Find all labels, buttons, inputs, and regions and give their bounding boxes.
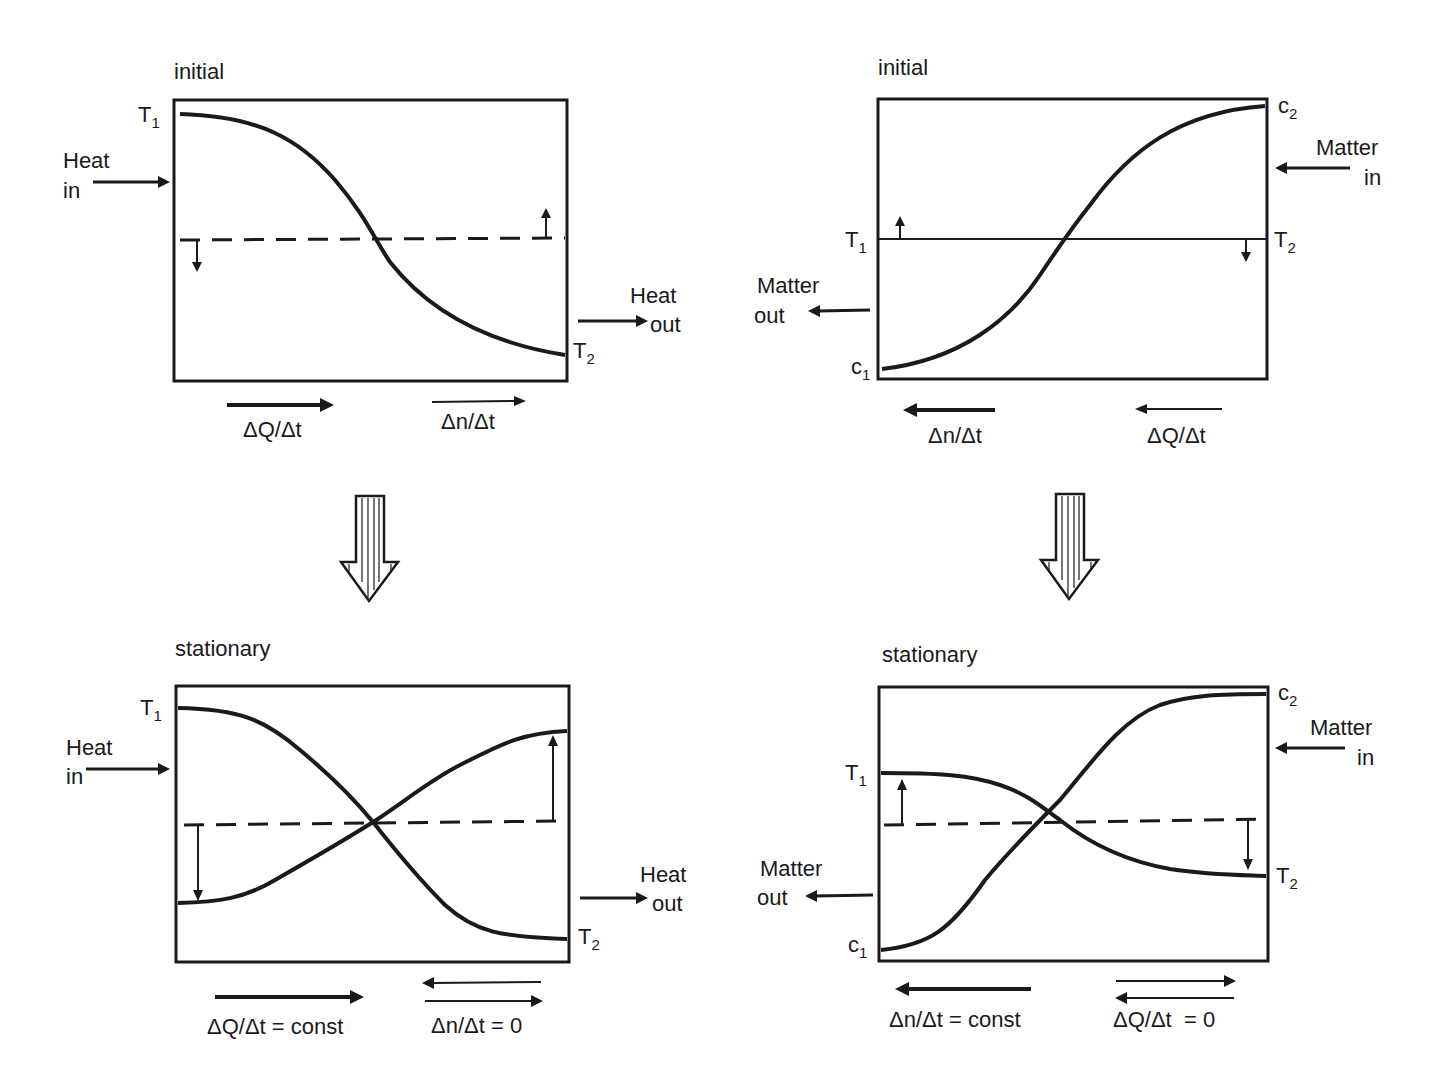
plot-frame xyxy=(174,100,567,381)
matter-out-arrow xyxy=(805,890,873,902)
svg-text:Δn/Δt: Δn/Δt xyxy=(441,409,495,434)
svg-text:T1: T1 xyxy=(845,760,867,789)
svg-text:out: out xyxy=(652,891,683,916)
svg-text:ΔQ/Δt = const: ΔQ/Δt = const xyxy=(207,1014,343,1039)
matter-flux-arrow-right xyxy=(425,995,543,1007)
heat-flux-arrow-right xyxy=(1116,975,1236,987)
svg-text:c2: c2 xyxy=(1278,680,1297,709)
transition-arrow-left xyxy=(341,496,398,601)
panel-title: stationary xyxy=(882,642,977,667)
panel-top-left: initial T1 T2 Heat in Heat out xyxy=(63,59,681,442)
svg-text:Heat: Heat xyxy=(63,148,109,173)
heat-in-arrow xyxy=(93,176,170,188)
dashed-midline xyxy=(884,819,1266,825)
svg-text:ΔQ/Δt: ΔQ/Δt xyxy=(1147,423,1206,448)
svg-text:in: in xyxy=(1357,745,1374,770)
svg-text:Δn/Δt = 0: Δn/Δt = 0 xyxy=(431,1013,522,1038)
heat-out-arrow xyxy=(578,315,648,327)
temperature-curve xyxy=(180,114,565,355)
matter-out-arrow xyxy=(808,305,870,317)
temperature-curve xyxy=(881,773,1266,876)
svg-text:in: in xyxy=(66,764,83,789)
matter-in-arrow xyxy=(1275,162,1350,174)
svg-text:Matter: Matter xyxy=(760,856,822,881)
up-arrow-small xyxy=(541,208,551,238)
svg-text:T2: T2 xyxy=(1274,227,1296,256)
panel-title: initial xyxy=(878,55,928,80)
svg-text:T1: T1 xyxy=(140,695,162,724)
svg-text:Matter: Matter xyxy=(1310,715,1372,740)
svg-text:c2: c2 xyxy=(1278,93,1297,122)
heat-out-arrow xyxy=(580,892,648,904)
svg-text:Δn/Δt = const: Δn/Δt = const xyxy=(889,1007,1021,1032)
svg-text:T2: T2 xyxy=(578,924,600,953)
down-arrow-small xyxy=(192,240,202,272)
svg-text:T2: T2 xyxy=(573,338,595,367)
concentration-curve xyxy=(881,694,1266,950)
concentration-curve xyxy=(178,731,567,903)
svg-text:Matter: Matter xyxy=(757,273,819,298)
svg-text:Heat: Heat xyxy=(66,735,112,760)
svg-text:out: out xyxy=(650,312,681,337)
matter-flux-arrow xyxy=(432,396,526,406)
svg-text:c1: c1 xyxy=(848,932,867,961)
matter-flux-arrow xyxy=(903,403,995,417)
heat-flux-arrow xyxy=(1135,404,1222,414)
svg-text:T2: T2 xyxy=(1276,863,1298,892)
dashed-midline xyxy=(180,238,565,240)
up-arrow-small xyxy=(895,216,905,239)
down-arrow-small xyxy=(1241,239,1251,262)
heat-flux-arrow-left xyxy=(1115,992,1234,1004)
heat-flux-arrow xyxy=(215,990,364,1004)
svg-text:T1: T1 xyxy=(845,227,867,256)
plot-frame xyxy=(879,687,1268,961)
svg-text:Δn/Δt: Δn/Δt xyxy=(928,423,982,448)
svg-text:out: out xyxy=(757,885,788,910)
svg-text:in: in xyxy=(1364,165,1381,190)
matter-flux-arrow-left xyxy=(422,977,541,989)
panel-bottom-right: stationary c2 c1 T1 T2 Matter in Matter … xyxy=(757,642,1374,1032)
svg-text:out: out xyxy=(754,303,785,328)
matter-in-arrow xyxy=(1275,742,1345,754)
panel-title: stationary xyxy=(175,636,270,661)
svg-text:T1: T1 xyxy=(138,102,160,131)
svg-text:ΔQ/Δt: ΔQ/Δt xyxy=(243,417,302,442)
panel-title: initial xyxy=(174,59,224,84)
svg-text:Heat: Heat xyxy=(640,862,686,887)
thermodiffusion-diagram: initial T1 T2 Heat in Heat out xyxy=(0,0,1430,1081)
svg-text:ΔQ/Δt = 0: ΔQ/Δt = 0 xyxy=(1113,1007,1215,1032)
concentration-curve xyxy=(882,106,1265,369)
panel-top-right: initial c2 c1 T1 T2 Matter in Matter out xyxy=(754,55,1381,448)
matter-flux-arrow xyxy=(895,982,1031,996)
down-arrow-long xyxy=(1243,820,1253,870)
heat-in-arrow xyxy=(86,763,170,775)
up-arrow-long xyxy=(548,735,558,821)
down-arrow-long xyxy=(193,826,203,901)
svg-text:Matter: Matter xyxy=(1316,135,1378,160)
svg-text:c1: c1 xyxy=(851,354,870,383)
svg-text:in: in xyxy=(63,178,80,203)
up-arrow-long xyxy=(897,779,907,824)
svg-text:Heat: Heat xyxy=(630,283,676,308)
transition-arrow-right xyxy=(1041,494,1098,599)
panel-bottom-left: stationary T1 T2 Heat in Heat out xyxy=(66,636,686,1039)
heat-flux-arrow xyxy=(227,398,334,412)
